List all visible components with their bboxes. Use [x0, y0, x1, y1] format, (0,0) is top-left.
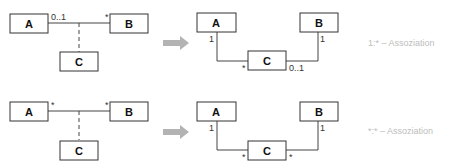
multiplicity-a: *: [51, 100, 55, 110]
multiplicity-a: 0..1: [51, 12, 66, 22]
class-label-b: B: [125, 18, 133, 30]
link-b-c: [286, 121, 318, 150]
class-label-a: A: [25, 106, 33, 118]
class-label-c: C: [263, 55, 271, 67]
right-arrow-icon: [163, 36, 189, 50]
link-a-c: [217, 121, 248, 150]
multiplicity-b-end: 1: [320, 34, 325, 44]
multiplicity-c-right: *: [289, 152, 293, 162]
row-2-after: A B C 1 1 * *: [197, 102, 338, 162]
link-b-c: [286, 32, 318, 61]
class-label-a: A: [212, 17, 220, 29]
association-note-2: *:* – Assoziation: [368, 126, 433, 136]
association-note-1: 1:* – Assoziation: [368, 38, 435, 48]
class-label-c: C: [75, 145, 83, 157]
multiplicity-a-end: 1: [209, 123, 214, 133]
multiplicity-b-end: 1: [320, 123, 325, 133]
row-1-before: A B C 0..1 *: [10, 12, 148, 71]
association-class-diagram: A B C 0..1 * A B C 1 1 * 0..1 1:* – Asso…: [0, 0, 453, 165]
multiplicity-b: *: [105, 100, 109, 110]
multiplicity-c-right: 0..1: [289, 63, 304, 73]
multiplicity-a-end: 1: [209, 34, 214, 44]
row-2-before: A B C * *: [10, 100, 148, 160]
class-label-c: C: [75, 56, 83, 68]
multiplicity-b: *: [105, 12, 109, 22]
right-arrow-icon: [163, 125, 189, 139]
class-label-b: B: [315, 106, 323, 118]
multiplicity-c-left: *: [242, 63, 246, 73]
row-1-after: A B C 1 1 * 0..1: [197, 13, 338, 73]
link-a-c: [217, 32, 248, 61]
class-label-b: B: [125, 106, 133, 118]
class-label-b: B: [315, 17, 323, 29]
class-label-a: A: [25, 18, 33, 30]
class-label-a: A: [212, 106, 220, 118]
multiplicity-c-left: *: [242, 152, 246, 162]
class-label-c: C: [263, 145, 271, 157]
